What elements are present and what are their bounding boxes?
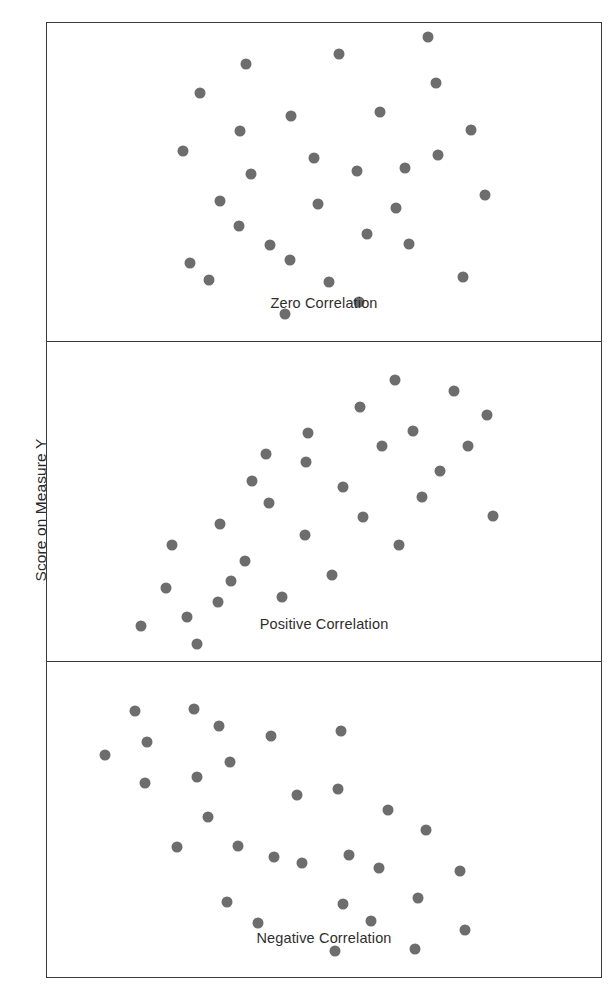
data-point	[139, 777, 150, 788]
data-point	[457, 271, 468, 282]
data-point	[166, 539, 177, 550]
data-point	[269, 851, 280, 862]
data-point	[338, 898, 349, 909]
data-point	[213, 721, 224, 732]
data-point	[377, 440, 388, 451]
scatter-plot-area-positive	[47, 342, 601, 661]
data-point	[407, 426, 418, 437]
data-point	[479, 189, 490, 200]
data-point	[141, 737, 152, 748]
data-point	[263, 498, 274, 509]
panel-label-zero-correlation: Zero Correlation	[47, 295, 601, 311]
data-point	[335, 726, 346, 737]
data-point	[327, 569, 338, 580]
data-point	[172, 842, 183, 853]
scatter-plot-area-negative	[47, 662, 601, 976]
data-point	[184, 257, 195, 268]
panel-positive-correlation: Positive Correlation	[47, 341, 601, 661]
panel-label-negative-correlation: Negative Correlation	[47, 930, 601, 946]
data-point	[266, 730, 277, 741]
panel-label-positive-correlation: Positive Correlation	[47, 616, 601, 632]
data-point	[129, 705, 140, 716]
data-point	[366, 916, 377, 927]
data-point	[454, 865, 465, 876]
data-point	[225, 576, 236, 587]
data-point	[389, 375, 400, 386]
data-point	[449, 386, 460, 397]
data-point	[261, 448, 272, 459]
data-point	[234, 126, 245, 137]
data-point	[252, 917, 263, 928]
data-point	[332, 784, 343, 795]
data-point	[296, 857, 307, 868]
data-point	[188, 704, 199, 715]
data-point	[416, 491, 427, 502]
data-point	[466, 124, 477, 135]
data-point	[285, 111, 296, 122]
data-point	[301, 456, 312, 467]
data-point	[194, 87, 205, 98]
data-point	[215, 518, 226, 529]
data-point	[357, 512, 368, 523]
data-point	[355, 402, 366, 413]
data-point	[422, 32, 433, 43]
data-point	[343, 850, 354, 861]
data-point	[463, 440, 474, 451]
data-point	[292, 790, 303, 801]
data-point	[391, 203, 402, 214]
data-point	[233, 840, 244, 851]
data-point	[404, 239, 415, 250]
data-point	[246, 475, 257, 486]
data-point	[240, 58, 251, 69]
data-point	[224, 757, 235, 768]
data-point	[100, 749, 111, 760]
data-point	[333, 48, 344, 59]
data-point	[277, 592, 288, 603]
data-point	[487, 510, 498, 521]
panel-zero-correlation: Zero Correlation	[47, 23, 601, 341]
data-point	[430, 78, 441, 89]
data-point	[361, 229, 372, 240]
data-point	[433, 150, 444, 161]
data-point	[421, 824, 432, 835]
data-point	[435, 466, 446, 477]
data-point	[204, 275, 215, 286]
data-point	[215, 196, 226, 207]
data-point	[202, 812, 213, 823]
data-point	[161, 582, 172, 593]
data-point	[413, 892, 424, 903]
data-point	[330, 945, 341, 956]
data-point	[382, 804, 393, 815]
data-point	[313, 199, 324, 210]
data-point	[338, 482, 349, 493]
data-point	[323, 277, 334, 288]
data-point	[233, 220, 244, 231]
data-point	[393, 539, 404, 550]
data-point	[246, 168, 257, 179]
data-point	[191, 771, 202, 782]
data-point	[399, 162, 410, 173]
data-point	[264, 240, 275, 251]
data-point	[374, 862, 385, 873]
data-point	[299, 529, 310, 540]
data-point	[482, 410, 493, 421]
data-point	[191, 639, 202, 650]
data-point	[351, 165, 362, 176]
data-point	[303, 427, 314, 438]
plot-frame: Zero Correlation Positive Correlation Ne…	[46, 22, 602, 978]
correlation-scatter-figure: Score on Measure Y Zero Correlation Posi…	[0, 0, 612, 994]
data-point	[374, 107, 385, 118]
data-point	[309, 153, 320, 164]
data-point	[222, 897, 233, 908]
panel-negative-correlation: Negative Correlation	[47, 661, 601, 976]
data-point	[212, 596, 223, 607]
data-point	[240, 555, 251, 566]
scatter-plot-area-zero	[47, 23, 601, 341]
data-point	[284, 255, 295, 266]
data-point	[177, 145, 188, 156]
